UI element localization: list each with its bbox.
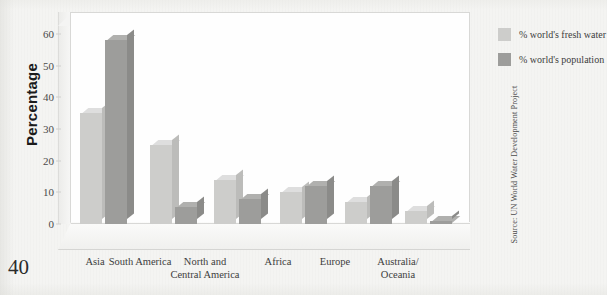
bar bbox=[305, 186, 327, 224]
legend-item: % world's fresh water bbox=[498, 28, 606, 41]
bar bbox=[105, 40, 127, 224]
bars-layer bbox=[58, 12, 470, 250]
bar bbox=[80, 113, 102, 224]
y-axis-tick-label: 60 bbox=[24, 28, 54, 40]
bar-front-face bbox=[239, 199, 261, 224]
legend-swatch bbox=[498, 28, 511, 41]
bar bbox=[280, 192, 302, 224]
bar-group bbox=[150, 34, 208, 224]
x-axis-category-label: Europe bbox=[305, 256, 365, 269]
bar-front-face bbox=[214, 180, 236, 224]
bar-front-face bbox=[105, 40, 127, 224]
bar-front-face bbox=[175, 207, 197, 224]
bar-side-face bbox=[261, 188, 268, 219]
bar bbox=[405, 211, 427, 224]
bar-side-face bbox=[127, 30, 134, 219]
y-axis-tick-label: 40 bbox=[24, 91, 54, 103]
bar-front-face bbox=[280, 192, 302, 224]
bar-side-face bbox=[427, 201, 434, 219]
bar-side-face bbox=[327, 176, 334, 219]
bar bbox=[239, 199, 261, 224]
y-axis-tick-label: 10 bbox=[24, 186, 54, 198]
y-axis-tick-label: 20 bbox=[24, 155, 54, 167]
bar bbox=[430, 221, 452, 224]
bar-group bbox=[405, 34, 463, 224]
legend-label: % world's population bbox=[519, 54, 604, 65]
bar-front-face bbox=[150, 145, 172, 224]
bar-front-face bbox=[305, 186, 327, 224]
chart-plot-area: 0102030405060 bbox=[58, 12, 470, 250]
bar-front-face bbox=[430, 221, 452, 224]
bar bbox=[345, 202, 367, 224]
bar-front-face bbox=[370, 186, 392, 224]
legend-label: % world's fresh water bbox=[519, 29, 606, 40]
x-axis-category-label: Africa bbox=[248, 256, 308, 269]
bar-group bbox=[280, 34, 338, 224]
bar-front-face bbox=[345, 202, 367, 224]
bar-group bbox=[80, 34, 138, 224]
bar-side-face bbox=[392, 176, 399, 219]
bar-front-face bbox=[80, 113, 102, 224]
bar-group bbox=[345, 34, 403, 224]
bar bbox=[214, 180, 236, 224]
x-axis-category-label: Australia/ Oceania bbox=[363, 256, 433, 281]
bar-front-face bbox=[405, 211, 427, 224]
bar bbox=[370, 186, 392, 224]
y-axis-tick-label: 0 bbox=[24, 218, 54, 230]
page-number: 40 bbox=[8, 255, 29, 280]
x-axis-category-label: North and Central America bbox=[158, 256, 253, 281]
y-axis-tick-label: 50 bbox=[24, 60, 54, 72]
bar-group bbox=[214, 34, 272, 224]
source-note: Source: UN World Water Development Proje… bbox=[510, 55, 519, 275]
bar-side-face bbox=[197, 196, 204, 219]
bar bbox=[175, 207, 197, 224]
bar bbox=[150, 145, 172, 224]
y-axis-tick-label: 30 bbox=[24, 123, 54, 135]
